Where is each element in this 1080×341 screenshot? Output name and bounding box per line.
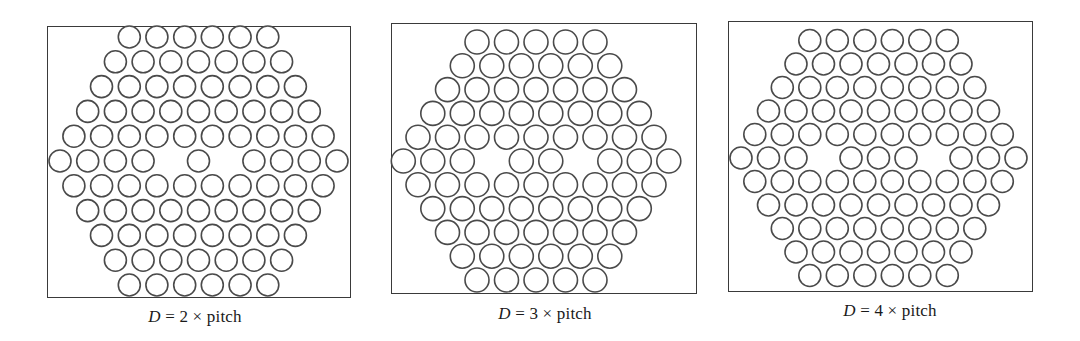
- air-hole: [950, 147, 972, 169]
- hole-lattice: [0, 0, 1080, 341]
- air-hole: [785, 100, 807, 122]
- air-hole: [840, 100, 862, 122]
- air-hole: [771, 77, 793, 99]
- air-hole: [909, 30, 931, 52]
- air-hole: [854, 30, 876, 52]
- air-hole: [1005, 147, 1027, 169]
- air-hole: [909, 124, 931, 146]
- air-hole: [854, 171, 876, 193]
- caption-equals: =: [856, 301, 875, 320]
- air-hole: [909, 77, 931, 99]
- air-hole: [758, 194, 780, 216]
- air-hole: [813, 53, 835, 75]
- air-hole: [895, 194, 917, 216]
- caption-multiplier: 4: [874, 301, 883, 320]
- air-hole: [813, 100, 835, 122]
- air-hole: [840, 53, 862, 75]
- air-hole: [991, 171, 1013, 193]
- air-hole: [964, 77, 986, 99]
- air-hole: [936, 171, 958, 193]
- air-hole: [950, 100, 972, 122]
- air-hole: [895, 100, 917, 122]
- air-hole: [909, 265, 931, 287]
- air-hole: [868, 100, 890, 122]
- caption-times: ×: [883, 301, 902, 320]
- air-hole: [826, 265, 848, 287]
- air-hole: [826, 171, 848, 193]
- air-hole: [799, 77, 821, 99]
- air-hole: [854, 218, 876, 240]
- air-hole: [950, 241, 972, 263]
- panel-caption: D = 4 × pitch: [843, 301, 937, 321]
- air-hole: [895, 241, 917, 263]
- air-hole: [771, 124, 793, 146]
- air-hole: [868, 194, 890, 216]
- air-hole: [881, 30, 903, 52]
- air-hole: [978, 194, 1000, 216]
- air-hole: [881, 265, 903, 287]
- air-hole: [826, 124, 848, 146]
- air-hole: [799, 30, 821, 52]
- air-hole: [813, 241, 835, 263]
- air-hole: [881, 218, 903, 240]
- air-hole: [936, 124, 958, 146]
- air-hole: [744, 171, 766, 193]
- air-hole: [909, 171, 931, 193]
- air-hole: [799, 265, 821, 287]
- air-hole: [826, 218, 848, 240]
- air-hole: [799, 171, 821, 193]
- air-hole: [964, 124, 986, 146]
- air-hole: [895, 53, 917, 75]
- air-hole: [950, 53, 972, 75]
- air-hole: [936, 265, 958, 287]
- air-hole: [799, 218, 821, 240]
- air-hole: [923, 100, 945, 122]
- air-hole: [868, 147, 890, 169]
- air-hole: [964, 218, 986, 240]
- air-hole: [785, 241, 807, 263]
- air-hole: [909, 218, 931, 240]
- air-hole: [854, 77, 876, 99]
- air-hole: [936, 30, 958, 52]
- air-hole: [923, 53, 945, 75]
- air-hole: [785, 147, 807, 169]
- air-hole: [840, 194, 862, 216]
- air-hole: [785, 194, 807, 216]
- air-hole: [868, 53, 890, 75]
- air-hole: [854, 124, 876, 146]
- air-hole: [881, 124, 903, 146]
- air-hole: [881, 77, 903, 99]
- air-hole: [923, 241, 945, 263]
- air-hole: [964, 171, 986, 193]
- caption-unit: pitch: [902, 301, 937, 320]
- air-hole: [799, 124, 821, 146]
- air-hole: [826, 77, 848, 99]
- air-hole: [840, 241, 862, 263]
- air-hole: [826, 30, 848, 52]
- air-hole: [758, 100, 780, 122]
- air-hole: [771, 171, 793, 193]
- caption-variable: D: [843, 301, 855, 320]
- air-hole: [744, 124, 766, 146]
- air-hole: [730, 147, 752, 169]
- air-hole: [813, 194, 835, 216]
- air-hole: [923, 194, 945, 216]
- air-hole: [936, 218, 958, 240]
- air-hole: [978, 100, 1000, 122]
- air-hole: [840, 147, 862, 169]
- air-hole: [978, 147, 1000, 169]
- air-hole: [785, 53, 807, 75]
- air-hole: [950, 194, 972, 216]
- air-hole: [868, 241, 890, 263]
- air-hole: [758, 147, 780, 169]
- air-hole: [936, 77, 958, 99]
- air-hole: [895, 147, 917, 169]
- air-hole: [881, 171, 903, 193]
- air-hole: [854, 265, 876, 287]
- air-hole: [771, 218, 793, 240]
- air-hole: [991, 124, 1013, 146]
